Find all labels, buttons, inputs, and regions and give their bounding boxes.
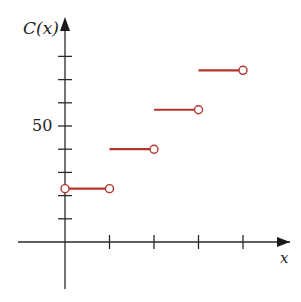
- step-function-chart: C(x) x 50: [0, 0, 301, 302]
- y-axis-label: C(x): [23, 18, 59, 38]
- open-endpoint-icon: [239, 66, 247, 74]
- x-axis-arrow-icon: [277, 237, 290, 247]
- x-axis-label: x: [280, 249, 289, 267]
- step-series: [61, 66, 247, 192]
- open-endpoint-icon: [150, 145, 158, 153]
- open-endpoint-icon: [61, 185, 69, 193]
- open-endpoint-icon: [106, 185, 114, 193]
- open-endpoint-icon: [195, 106, 203, 114]
- y-axis-arrow-icon: [60, 17, 70, 31]
- y-tick-label-50: 50: [32, 116, 52, 135]
